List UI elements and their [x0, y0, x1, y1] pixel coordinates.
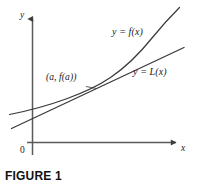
x-axis-label: x — [181, 144, 185, 154]
y-axis-label: y — [20, 11, 24, 21]
figure-container: y = f(x) y = L(x) (a, f(a)) y x 0 FIGURE… — [0, 0, 200, 188]
tangent-line — [12, 48, 185, 129]
plot-area — [0, 0, 200, 188]
origin-label: 0 — [20, 146, 25, 156]
figure-caption: FIGURE 1 — [5, 169, 62, 183]
tangent-line-label: y = L(x) — [133, 67, 167, 77]
tangent-point-label: (a, f(a)) — [46, 73, 76, 83]
curve-label: y = f(x) — [112, 27, 143, 37]
